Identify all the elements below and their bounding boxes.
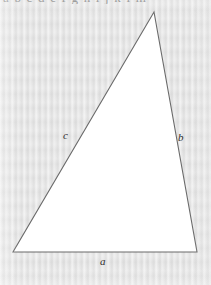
figure-canvas: a b c d e f g h i j k l m c b a bbox=[0, 0, 211, 285]
side-label-b: b bbox=[178, 132, 184, 143]
side-label-a: a bbox=[100, 256, 106, 267]
side-label-c: c bbox=[63, 130, 68, 141]
triangle-shape bbox=[13, 12, 197, 252]
